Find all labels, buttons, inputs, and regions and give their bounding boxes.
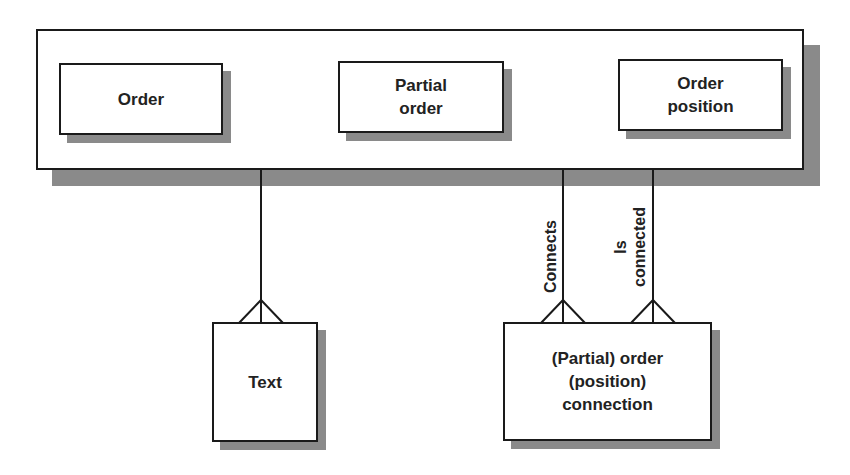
- relationship-text-line[interactable]: [239, 170, 283, 323]
- label-line: connected: [631, 207, 648, 287]
- relationship-label-is-connected: Is connected: [611, 197, 649, 297]
- relationship-label-connects: Connects: [541, 220, 560, 293]
- label-text: Connects: [542, 220, 559, 293]
- label-line: Is: [612, 240, 629, 253]
- relationship-lines: [0, 0, 850, 475]
